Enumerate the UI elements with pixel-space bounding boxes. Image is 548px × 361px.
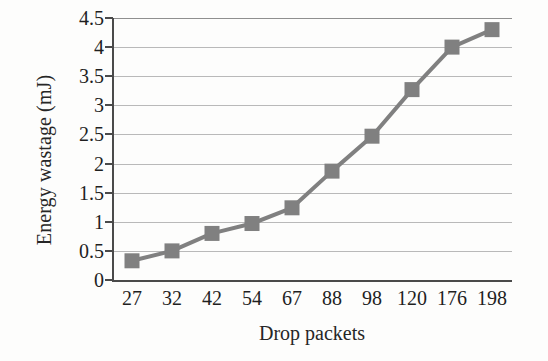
x-tick-label: 54: [242, 288, 262, 308]
plot-area: [112, 18, 512, 280]
data-point-marker: [445, 40, 460, 55]
series-line: [132, 30, 492, 261]
data-point-marker: [165, 243, 180, 258]
x-tick-label: 120: [397, 288, 427, 308]
y-tick-label: 3.5: [79, 66, 104, 86]
x-tick-label: 176: [437, 288, 467, 308]
y-tick-label: 2.5: [79, 124, 104, 144]
x-tick-label: 27: [122, 288, 142, 308]
x-axis-tick-labels: 27324254678898120176198: [112, 288, 512, 316]
data-point-marker: [405, 82, 420, 97]
y-tick-label: 0.5: [79, 241, 104, 261]
y-tick-label: 0: [94, 270, 104, 290]
x-tick-label: 67: [282, 288, 302, 308]
y-tick-label: 1.5: [79, 183, 104, 203]
data-point-marker: [365, 129, 380, 144]
chart-figure: Energy wastage (mJ) 00.511.522.533.544.5…: [0, 0, 548, 361]
x-tick-label: 98: [362, 288, 382, 308]
data-point-marker: [485, 22, 500, 37]
x-axis-title: Drop packets: [112, 322, 512, 345]
gridline: [112, 280, 512, 282]
data-point-marker: [125, 253, 140, 268]
data-point-marker: [205, 226, 220, 241]
y-axis-tick-labels: 00.511.522.533.544.5: [58, 18, 108, 280]
y-tick-label: 1: [94, 212, 104, 232]
y-tick-label: 4: [94, 37, 104, 57]
data-point-marker: [245, 216, 260, 231]
x-tick-label: 88: [322, 288, 342, 308]
x-tick-label: 42: [202, 288, 222, 308]
data-series: [112, 18, 512, 280]
data-point-marker: [325, 164, 340, 179]
x-tick-label: 198: [477, 288, 507, 308]
x-tick-label: 32: [162, 288, 182, 308]
data-point-marker: [285, 200, 300, 215]
y-tick-label: 2: [94, 154, 104, 174]
y-tick-label: 3: [94, 95, 104, 115]
y-tick-label: 4.5: [79, 8, 104, 28]
